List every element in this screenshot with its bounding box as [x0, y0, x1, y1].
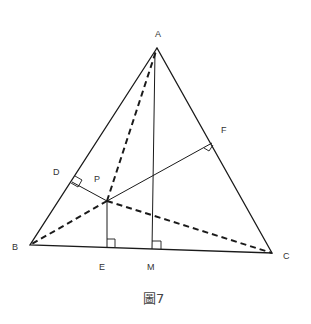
right-angle-e [107, 239, 115, 247]
segment-pd [72, 182, 107, 201]
label-e: E [99, 263, 105, 272]
label-p: P [94, 175, 100, 184]
altitude-am [152, 52, 155, 249]
label-m: M [147, 263, 155, 272]
triangle-abc [30, 48, 272, 253]
triangle-diagram [0, 0, 311, 324]
label-a: A [155, 30, 161, 39]
label-d: D [53, 168, 60, 177]
label-c: C [283, 252, 290, 261]
dashed-pb [30, 201, 107, 245]
figure-caption: 圖7 [143, 292, 164, 305]
right-angle-m [152, 241, 161, 249]
label-f: F [221, 126, 227, 135]
label-b: B [12, 243, 18, 252]
